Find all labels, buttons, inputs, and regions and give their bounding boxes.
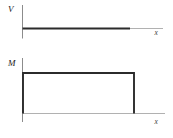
shear-x-axis-label: x [154,28,159,37]
moment-diagram: M x [7,58,165,127]
shear-y-axis-label: V [8,4,15,14]
moment-y-axis-label: M [7,58,16,68]
shear-moment-figure: V x M x [0,0,173,138]
moment-curve [23,73,134,114]
shear-diagram: V x [8,4,163,39]
figure-canvas: V x M x [0,0,173,138]
moment-x-axis-label: x [154,117,159,126]
